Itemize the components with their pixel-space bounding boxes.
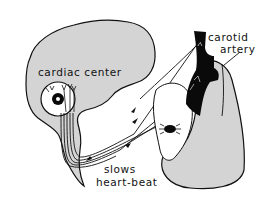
artery-label: artery [220, 43, 255, 55]
diagram-canvas: cardiac center carotid artery slows hear… [0, 0, 258, 206]
slows-label: slows [104, 163, 136, 175]
cardiac-center-circle [41, 82, 76, 116]
carotid-label: carotid [208, 31, 249, 43]
cardiac-center-label: cardiac center [38, 66, 122, 78]
heart-beat-label: heart-beat [96, 176, 157, 188]
arrows [86, 107, 138, 161]
sinoatrial-node [159, 124, 181, 134]
